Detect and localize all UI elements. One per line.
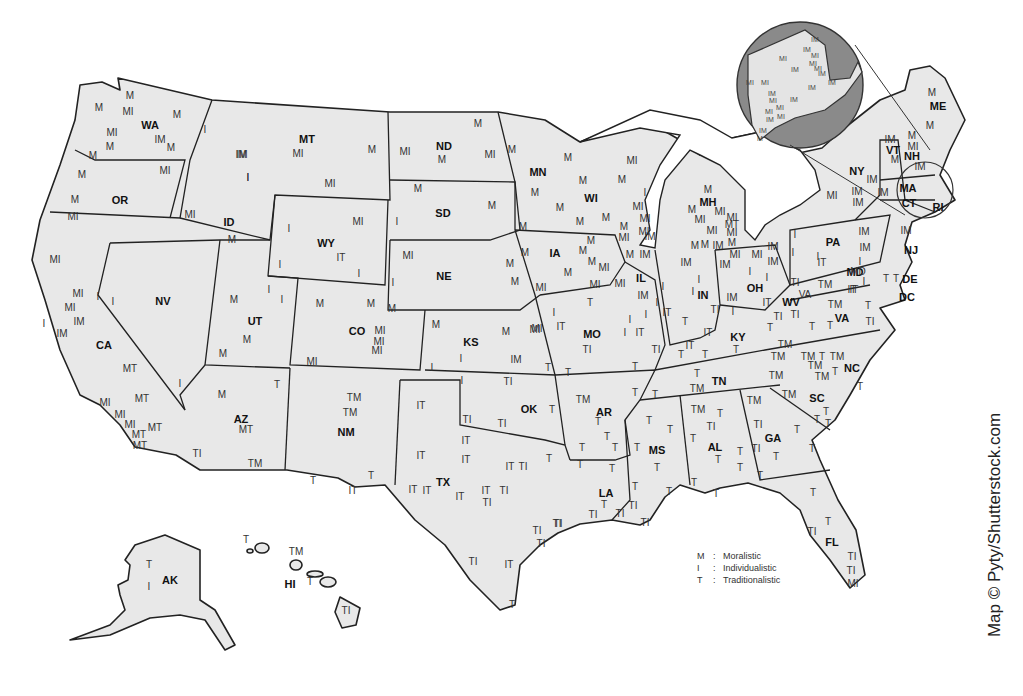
state-label-sc: SC: [809, 393, 824, 404]
culture-code: TI: [589, 510, 598, 520]
culture-code: T: [733, 345, 739, 355]
culture-code: MI: [99, 398, 110, 408]
state-label-oh: OH: [747, 283, 764, 294]
culture-code: I: [629, 315, 632, 325]
culture-code: T: [857, 382, 863, 392]
culture-code: T: [715, 455, 721, 465]
inset-culture-code: MI: [811, 52, 819, 59]
culture-code: MI: [639, 214, 650, 224]
culture-code: T: [587, 298, 593, 308]
culture-code: I: [692, 287, 695, 297]
culture-code: IM: [154, 135, 165, 145]
culture-code: IM: [639, 250, 650, 260]
culture-code: IM: [884, 135, 895, 145]
culture-code: IM: [900, 226, 911, 236]
state-label-dc: DC: [899, 292, 915, 303]
culture-code: MI: [374, 326, 385, 336]
culture-code: T: [702, 350, 708, 360]
culture-code: IT: [506, 462, 515, 472]
culture-code: IM: [56, 329, 67, 339]
culture-code: T: [737, 447, 743, 457]
culture-code: T: [810, 488, 816, 498]
state-label-fl: FL: [825, 537, 838, 548]
culture-code: MI: [67, 212, 78, 222]
state-label-ms: MS: [649, 445, 666, 456]
culture-code: T: [368, 471, 374, 481]
culture-code: M: [368, 145, 376, 155]
state-label-pa: PA: [826, 237, 840, 248]
culture-code: T: [717, 409, 723, 419]
culture-code: M: [438, 155, 446, 165]
culture-code: M: [556, 203, 564, 213]
culture-code: TI: [866, 317, 875, 327]
state-label-wi: WI: [584, 193, 597, 204]
culture-code: TM: [747, 396, 761, 406]
culture-code: M: [89, 151, 97, 161]
culture-code: TI: [463, 415, 472, 425]
inset-culture-code: IM: [766, 116, 774, 123]
culture-code: T: [609, 464, 615, 474]
state-label-ga: GA: [765, 433, 782, 444]
culture-code: IT: [409, 485, 418, 495]
culture-code: IM: [235, 150, 246, 160]
state-label-ok: OK: [521, 404, 538, 415]
culture-code: T: [667, 425, 673, 435]
culture-code: TM: [815, 372, 829, 382]
culture-code: IM: [680, 258, 691, 268]
culture-code: T: [604, 432, 610, 442]
state-label-mt: MT: [299, 134, 315, 145]
culture-code: MT: [133, 441, 147, 451]
culture-code: T: [757, 471, 763, 481]
culture-code: I: [112, 297, 115, 307]
state-label-id: ID: [224, 217, 235, 228]
culture-code: TI: [752, 444, 761, 454]
culture-code: IT: [704, 328, 713, 338]
culture-code: T: [809, 444, 815, 454]
culture-code: MI: [122, 107, 133, 117]
culture-code: I: [268, 285, 271, 295]
inset-culture-code: MI: [776, 104, 784, 111]
culture-code: TM: [771, 352, 785, 362]
state-label-nh: NH: [904, 151, 920, 162]
culture-code: I: [204, 125, 207, 135]
culture-code: TM: [691, 405, 705, 415]
culture-code: MI: [292, 149, 303, 159]
state-label-de: DE: [902, 274, 917, 285]
culture-code: I: [179, 379, 182, 389]
culture-code: IM: [859, 243, 870, 253]
culture-code: M: [531, 188, 539, 198]
culture-code: T: [825, 419, 831, 429]
culture-code: TI: [707, 422, 716, 432]
state-label-nv: NV: [155, 296, 170, 307]
inset-culture-code: MI: [765, 108, 773, 115]
culture-code: T: [632, 362, 638, 372]
culture-code: MT: [148, 423, 162, 433]
culture-code: IT: [686, 341, 695, 351]
culture-code: TM: [818, 280, 832, 290]
inset-culture-code: M: [757, 135, 763, 142]
culture-code: M: [230, 295, 238, 305]
culture-code: IT: [505, 560, 514, 570]
culture-code: I: [279, 260, 282, 270]
culture-code: IT: [417, 401, 426, 411]
state-label-ut: UT: [248, 316, 263, 327]
culture-code: I: [644, 188, 647, 198]
culture-code: M: [618, 175, 626, 185]
culture-code: M: [579, 176, 587, 186]
culture-code: TI: [847, 566, 856, 576]
culture-code: M: [106, 142, 114, 152]
culture-code: MI: [618, 233, 629, 243]
culture-code: M: [474, 119, 482, 129]
culture-code: IM: [852, 198, 863, 208]
state-label-ri: RI: [933, 202, 944, 213]
culture-code: IT: [337, 253, 346, 263]
state-label-mo: MO: [583, 329, 601, 340]
inset-culture-code: MI: [761, 79, 769, 86]
culture-code: MI: [847, 579, 858, 589]
culture-code: TI: [533, 526, 542, 536]
state-label-in: IN: [698, 290, 709, 301]
culture-code: TM: [769, 371, 783, 381]
state-label-mn: MN: [529, 167, 546, 178]
culture-code: MI: [706, 226, 717, 236]
culture-code: MI: [324, 179, 335, 189]
